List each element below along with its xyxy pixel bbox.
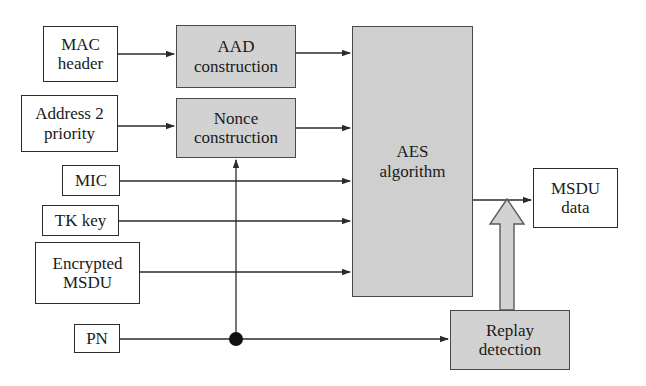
node-replay-detection[interactable]: Replay detection [450, 310, 570, 370]
node-aad-construction[interactable]: AAD construction [176, 25, 296, 88]
node-address2-priority[interactable]: Address 2 priority [21, 95, 118, 152]
node-tk-key[interactable]: TK key [42, 205, 119, 236]
node-label: Replay detection [451, 321, 569, 359]
node-msdu-data[interactable]: MSDU data [533, 168, 618, 228]
block-arrow-replay-to-output [490, 199, 524, 310]
node-label: MIC [63, 171, 119, 190]
node-aes-algorithm[interactable]: AES algorithm [352, 26, 473, 297]
diagram-canvas: MAC header Address 2 priority MIC TK key… [0, 0, 646, 386]
node-label: AAD construction [177, 37, 295, 75]
node-label: PN [75, 329, 119, 348]
node-label: MSDU data [534, 179, 617, 217]
node-label: MAC header [44, 35, 117, 73]
node-mic[interactable]: MIC [62, 165, 120, 196]
node-label: Nonce construction [177, 109, 295, 147]
node-label: TK key [43, 211, 118, 230]
node-mac-header[interactable]: MAC header [43, 26, 118, 82]
node-label: Address 2 priority [22, 104, 117, 142]
node-encrypted-msdu[interactable]: Encrypted MSDU [35, 242, 140, 304]
junction-dot-pn [229, 332, 243, 346]
node-nonce-construction[interactable]: Nonce construction [176, 98, 296, 158]
node-pn[interactable]: PN [74, 324, 120, 353]
node-label: Encrypted MSDU [36, 254, 139, 292]
node-label: AES algorithm [353, 142, 472, 180]
